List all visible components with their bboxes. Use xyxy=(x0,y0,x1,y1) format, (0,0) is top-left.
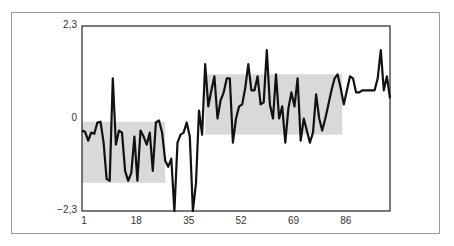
x-tick-label: 69 xyxy=(278,215,308,226)
y-tick-label: −2,3 xyxy=(37,204,77,215)
y-tick-label: 2,3 xyxy=(37,19,77,30)
y-tick-label: 0 xyxy=(37,112,77,123)
x-tick-label: 86 xyxy=(331,215,361,226)
x-tick-label: 35 xyxy=(174,215,204,226)
x-tick-label: 52 xyxy=(226,215,256,226)
x-tick-label: 1 xyxy=(69,215,99,226)
x-tick-label: 18 xyxy=(121,215,151,226)
